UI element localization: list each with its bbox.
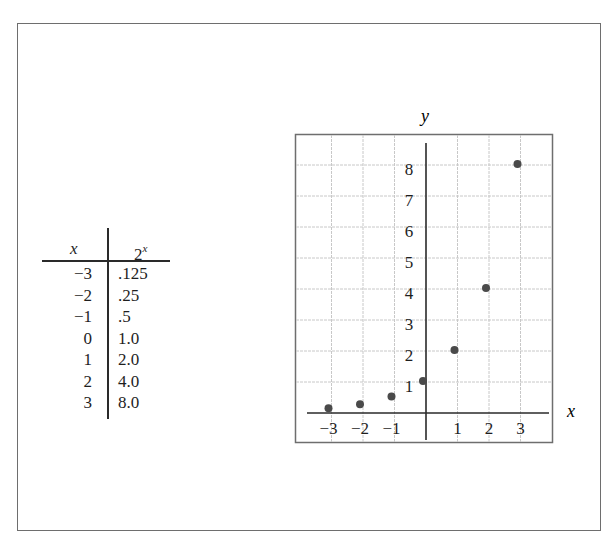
x-tick-label: −3 xyxy=(319,419,337,438)
data-points xyxy=(325,160,522,412)
x-tick-label: −2 xyxy=(351,419,369,438)
data-point xyxy=(325,404,333,412)
x-tick-label: 3 xyxy=(516,419,525,438)
data-point xyxy=(419,377,427,385)
y-tick-label: 3 xyxy=(405,315,414,334)
y-tick-label: 4 xyxy=(405,284,414,303)
y-tick-label: 2 xyxy=(405,346,414,365)
data-point xyxy=(451,346,459,354)
y-tick-label: 8 xyxy=(405,160,414,179)
x-tick-label: 2 xyxy=(485,419,494,438)
scatter-plot: y x −3−2−112312345678 xyxy=(0,0,615,543)
data-point xyxy=(514,160,522,168)
data-point xyxy=(388,393,396,401)
y-tick-label: 1 xyxy=(405,377,414,396)
y-axis-label: y xyxy=(419,106,429,126)
y-tick-label: 5 xyxy=(405,253,414,272)
data-point xyxy=(482,284,490,292)
axes xyxy=(307,143,549,440)
x-tick-label: −1 xyxy=(382,419,400,438)
x-axis-label: x xyxy=(566,401,575,421)
grid-lines xyxy=(296,135,552,442)
data-point xyxy=(356,400,364,408)
y-tick-label: 6 xyxy=(405,222,414,241)
x-tick-label: 1 xyxy=(453,419,462,438)
y-tick-label: 7 xyxy=(405,191,414,210)
tick-labels: −3−2−112312345678 xyxy=(319,160,524,438)
